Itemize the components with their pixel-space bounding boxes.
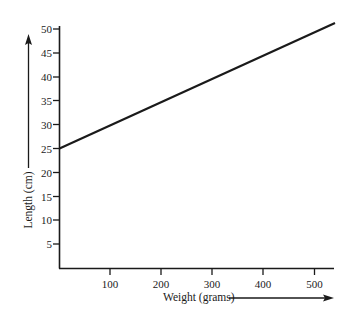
y-tick-label: 5 xyxy=(47,238,53,250)
y-tick-label: 45 xyxy=(41,47,53,59)
data-line xyxy=(60,23,336,149)
x-tick-label: 100 xyxy=(102,278,119,290)
x-tick-label: 400 xyxy=(255,278,272,290)
y-tick-label: 10 xyxy=(41,214,53,226)
y-tick-label: 35 xyxy=(41,95,53,107)
y-tick-label: 30 xyxy=(41,119,53,131)
y-tick-labels: 50 45 40 35 30 25 20 15 10 5 xyxy=(41,23,53,250)
x-tick-labels: 100 200 300 400 500 xyxy=(102,278,324,290)
y-tick-label: 15 xyxy=(41,191,53,203)
x-tick-label: 500 xyxy=(306,278,323,290)
y-tick-label: 40 xyxy=(41,71,53,83)
y-tick-label: 50 xyxy=(41,23,53,35)
x-tick-label: 200 xyxy=(153,278,170,290)
y-axis-title: Length (cm) xyxy=(22,171,35,228)
chart: 50 45 40 35 30 25 20 15 10 5 100 200 300… xyxy=(0,0,351,319)
y-tick-label: 25 xyxy=(41,143,53,155)
y-tick-label: 20 xyxy=(41,167,53,179)
x-tick-label: 300 xyxy=(204,278,221,290)
x-axis-title: Weight (grams) xyxy=(163,291,235,304)
